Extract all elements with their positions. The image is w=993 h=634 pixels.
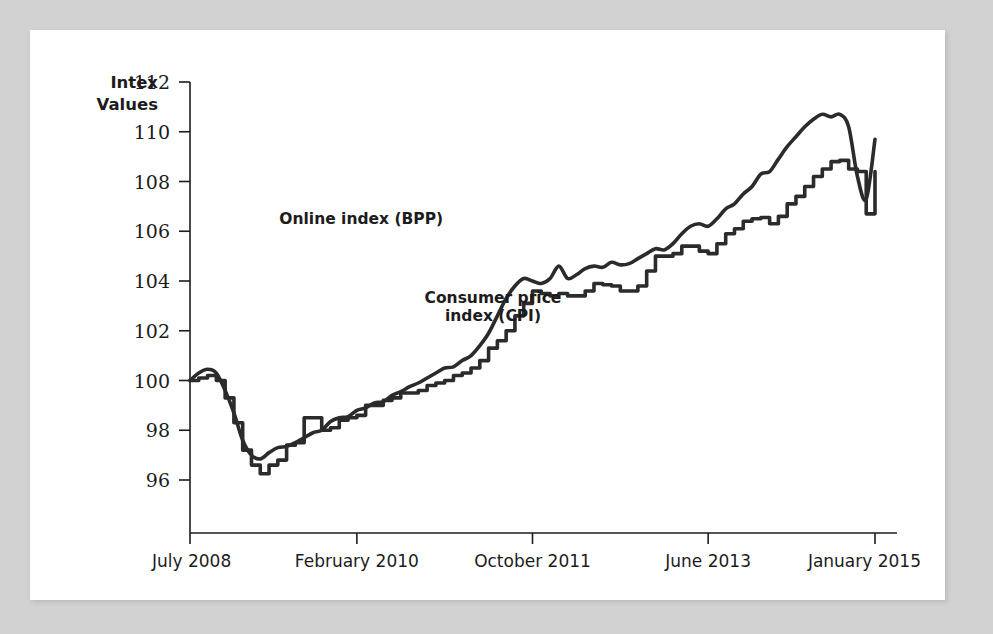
x-tick-label: July 2008 [151,551,231,571]
series-annotation-label: Online index (BPP) [279,210,443,228]
y-tick-label: 100 [134,370,170,392]
chart-page: Intex Values 9698100102104106108110112 J… [0,0,993,634]
y-tick-label: 98 [146,419,170,441]
x-tick-label: February 2010 [295,551,419,571]
y-tick-label: 108 [134,171,170,193]
figure-card: Intex Values 9698100102104106108110112 J… [30,30,945,600]
x-axis-ticks: July 2008February 2010October 2011June 2… [151,533,921,571]
y-axis-label-line2: Values [97,95,159,114]
x-tick-label: October 2011 [474,551,591,571]
y-tick-label: 106 [134,220,170,242]
y-axis-ticks: 9698100102104106108110112 [134,71,190,491]
y-tick-label: 102 [134,320,170,342]
x-tick-label: January 2015 [807,551,921,571]
series-annotation-label: Consumer price [425,289,562,307]
y-tick-label: 110 [134,121,170,143]
series-line-online-index-bpp [190,114,875,459]
series-annotations: Online index (BPP)Consumer priceindex (C… [279,210,561,325]
series-annotation-label: index (CPI) [445,307,541,325]
y-tick-label: 96 [146,469,170,491]
line-chart: Intex Values 9698100102104106108110112 J… [30,30,945,600]
y-tick-label: 104 [134,270,170,292]
x-tick-label: June 2013 [664,551,751,571]
y-tick-label: 112 [134,71,170,93]
